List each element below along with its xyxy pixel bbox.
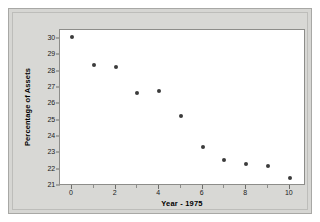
data-point	[157, 89, 161, 93]
chart-outer-panel: Percentage of Assets 2122232425262728293…	[8, 8, 312, 214]
y-axis-tick-label: 29	[48, 50, 55, 58]
x-axis-tick-label: 10	[285, 188, 292, 197]
x-axis-tick-label: 6	[200, 188, 204, 197]
x-axis-label: Year - 1975	[59, 199, 305, 208]
x-axis-tick-label: 4	[156, 188, 160, 197]
data-point	[222, 158, 226, 162]
y-axis-tick-label: 24	[48, 132, 55, 140]
data-point	[266, 164, 270, 168]
x-axis-tick-label: 8	[243, 188, 247, 197]
plot-area	[60, 30, 304, 184]
data-point	[288, 176, 292, 180]
y-axis-tick-label: 21	[48, 181, 55, 189]
data-point	[70, 35, 74, 39]
y-axis-label: Percentage of Assets	[23, 68, 32, 146]
y-axis-tick-label: 28	[48, 67, 55, 75]
data-point	[114, 65, 118, 69]
y-axis-tick-label: 30	[48, 34, 55, 42]
x-axis-tick-label: 2	[113, 188, 117, 197]
y-axis-tick-label: 26	[48, 99, 55, 107]
y-axis-tick-labels: 21222324252627282930	[35, 29, 55, 185]
scatter-chart-figure: Percentage of Assets 2122232425262728293…	[0, 0, 320, 222]
data-point	[244, 162, 248, 166]
y-axis-label-container: Percentage of Assets	[21, 29, 33, 185]
data-point	[92, 63, 96, 67]
plot-box	[59, 29, 305, 185]
data-point	[201, 145, 205, 149]
chart-inner-panel: Percentage of Assets 2122232425262728293…	[12, 12, 308, 210]
x-axis-tick-label: 0	[69, 188, 73, 197]
data-point	[179, 114, 183, 118]
y-axis-tick-label: 22	[48, 165, 55, 173]
y-axis-tick-label: 27	[48, 83, 55, 91]
y-axis-tick-label: 25	[48, 116, 55, 124]
y-axis-tick-label: 23	[48, 148, 55, 156]
data-point	[135, 91, 139, 95]
